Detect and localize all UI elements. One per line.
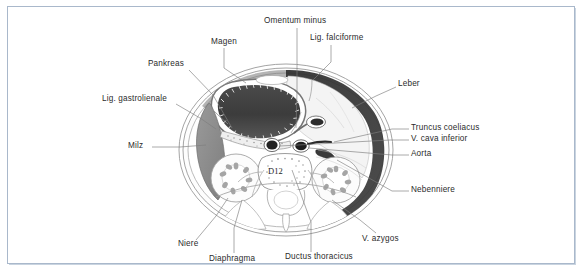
figure-page: Omentum minus Lig. falciforme Magen Pank… — [0, 0, 584, 275]
anatomical-cross-section — [0, 0, 584, 275]
label-leber: Leber — [398, 79, 420, 88]
gallbladder-lumen — [311, 118, 324, 125]
label-aorta: Aorta — [411, 149, 431, 158]
label-truncus-coeliacus: Truncus coeliacus — [411, 123, 479, 132]
vertebra-level-label: D12 — [268, 166, 283, 176]
kidney-left — [211, 154, 261, 202]
kidney-right — [312, 157, 360, 203]
stomach-gas-bubble — [256, 75, 288, 84]
label-omentum-minus: Omentum minus — [264, 16, 326, 25]
label-ductus-thoracicus: Ductus thoracicus — [285, 252, 353, 261]
label-lig-falciforme: Lig. falciforme — [310, 33, 363, 42]
label-v-azygos: V. azygos — [362, 234, 399, 243]
aorta-lumen — [295, 142, 307, 150]
label-pankreas: Pankreas — [148, 59, 184, 68]
label-v-cava-inferior: V. cava inferior — [411, 134, 467, 143]
vena-cava-lumen — [266, 140, 277, 149]
label-lig-gastrolienale: Lig. gastrolienale — [102, 94, 167, 103]
label-milz: Milz — [128, 141, 143, 150]
label-diaphragma: Diaphragma — [209, 254, 255, 263]
label-magen: Magen — [211, 37, 237, 46]
label-nebenniere: Nebenniere — [411, 185, 455, 194]
label-niere: Niere — [178, 239, 198, 248]
